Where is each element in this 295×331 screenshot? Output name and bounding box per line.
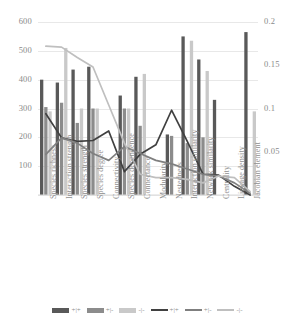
legend-item[interactable]: +|+ — [52, 306, 80, 314]
legend-item-label: +|- — [106, 306, 114, 314]
legend-item[interactable]: +|- — [185, 306, 212, 314]
bar — [40, 80, 43, 195]
x-axis-tick-label: Connectivity — [112, 156, 121, 199]
legend-line-swatch-icon — [217, 309, 234, 311]
chart-figure: 100200300400500600 0.050.10.150.2 Specie… — [0, 0, 295, 331]
legend-item[interactable]: -|- — [217, 306, 242, 314]
x-axis-tick-label: Species dependence — [127, 133, 136, 199]
bar — [138, 126, 141, 195]
legend-bar-swatch-icon — [52, 308, 69, 313]
bar — [60, 103, 63, 195]
chart-legend: +|++|--|-+|++|--|- — [0, 300, 295, 320]
x-axis-tick-label: Nestedness — [175, 162, 184, 199]
x-axis-labels: Species richnessInteraction strengthSpec… — [0, 195, 295, 295]
x-axis-tick-label: Connectance — [143, 157, 152, 199]
x-axis-tick-label: Centrality — [222, 166, 231, 199]
legend-line-swatch-icon — [185, 309, 202, 311]
bar — [201, 137, 204, 195]
legend-item[interactable]: -|- — [119, 306, 144, 314]
x-axis-tick-label: Network similarity — [206, 137, 215, 199]
x-axis-tick-label: Interaction strength — [65, 135, 74, 199]
x-axis-tick-label: Species richness — [49, 145, 58, 199]
x-axis-tick-label: Linkage density — [237, 146, 246, 199]
x-axis-tick-label: Interaction similarity — [190, 129, 199, 199]
x-axis-tick-label: Species strength — [80, 145, 89, 199]
x-axis-tick-label: Jacobian element — [253, 142, 262, 199]
legend-line-swatch-icon — [151, 309, 168, 311]
bar — [170, 136, 173, 195]
legend-item[interactable]: +|- — [87, 306, 114, 314]
legend-item-label: -|- — [236, 306, 242, 314]
legend-item-label: +|+ — [71, 306, 80, 314]
bar — [123, 109, 126, 196]
x-axis-tick-label: Modularity — [159, 162, 168, 199]
x-axis-tick-label: Species degree — [96, 150, 105, 199]
legend-item[interactable]: +|+ — [151, 306, 179, 314]
bar — [76, 123, 79, 195]
legend-item-label: +|- — [204, 306, 212, 314]
legend-item-label: -|- — [138, 306, 144, 314]
legend-item-label: +|+ — [170, 306, 179, 314]
legend-bar-swatch-icon — [87, 308, 104, 313]
bar — [44, 107, 47, 195]
legend-bar-swatch-icon — [119, 308, 136, 313]
